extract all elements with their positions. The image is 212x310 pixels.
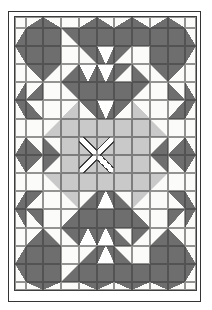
- quilt-cell: [79, 64, 97, 82]
- quilt-cell: [61, 264, 79, 282]
- quilt-cell: [79, 46, 97, 64]
- quilt-cell: [114, 191, 132, 209]
- quilt-cell: [97, 246, 115, 264]
- quilt-cell: [43, 46, 61, 64]
- quilt-cell: [185, 282, 196, 290]
- quilt-cell: [61, 82, 79, 100]
- quilt-cell: [26, 155, 44, 173]
- quilt-cell: [79, 228, 97, 246]
- quilt-cell: [61, 191, 79, 209]
- quilt-cell: [43, 17, 61, 28]
- quilt-cell: [97, 282, 115, 290]
- quilt-cell: [43, 28, 61, 46]
- quilt-cell: [26, 46, 44, 64]
- quilt-cell: [132, 119, 150, 137]
- quilt-cell: [185, 17, 196, 28]
- quilt-cell: [61, 28, 79, 46]
- quilt-cell: [15, 228, 26, 246]
- quilt-cell: [168, 191, 186, 209]
- quilt-cell: [114, 82, 132, 100]
- quilt-cell: [168, 209, 186, 227]
- quilt-cell: [43, 173, 61, 191]
- quilt-cell: [185, 173, 196, 191]
- quilt-cell: [97, 46, 115, 64]
- quilt-cell: [97, 228, 115, 246]
- quilt-cell: [26, 246, 44, 264]
- quilt-cell: [26, 28, 44, 46]
- quilt-cell: [185, 119, 196, 137]
- quilt-cell: [132, 228, 150, 246]
- quilt-cell: [97, 173, 115, 191]
- quilt-cell: [26, 173, 44, 191]
- quilt-cell: [79, 246, 97, 264]
- quilt-cell: [114, 119, 132, 137]
- quilt-cell: [61, 282, 79, 290]
- quilt-cell: [61, 100, 79, 118]
- quilt-cell: [43, 209, 61, 227]
- quilt-cell: [114, 282, 132, 290]
- quilt-cell: [26, 119, 44, 137]
- quilt-cell: [132, 17, 150, 28]
- quilt-cell: [132, 191, 150, 209]
- quilt-cell: [132, 246, 150, 264]
- quilt-cell: [61, 228, 79, 246]
- quilt-cell: [150, 209, 168, 227]
- quilt-cell: [79, 17, 97, 28]
- quilt-cell: [150, 82, 168, 100]
- quilt-cell: [185, 209, 196, 227]
- quilt-cell: [97, 17, 115, 28]
- quilt-cell: [79, 28, 97, 46]
- quilt-cell: [15, 282, 26, 290]
- quilt-cell: [43, 282, 61, 290]
- quilt-cell: [150, 228, 168, 246]
- quilt-cell: [43, 100, 61, 118]
- quilt-cell: [26, 264, 44, 282]
- quilt-cell: [185, 246, 196, 264]
- quilt-cell: [150, 100, 168, 118]
- quilt-pattern-page: { "diagram": { "title": "Quilt pattern d…: [0, 0, 212, 310]
- quilt-cell: [114, 46, 132, 64]
- quilt-cell: [132, 209, 150, 227]
- quilt-cell: [79, 173, 97, 191]
- quilt-cell: [43, 191, 61, 209]
- quilt-cell: [114, 246, 132, 264]
- quilt-cell: [168, 228, 186, 246]
- quilt-diagram: [14, 16, 197, 291]
- quilt-cell: [185, 264, 196, 282]
- quilt-cell: [26, 17, 44, 28]
- quilt-cell: [97, 100, 115, 118]
- quilt-cell: [15, 17, 26, 28]
- quilt-cell: [79, 264, 97, 282]
- quilt-cell: [150, 137, 168, 155]
- quilt-cell: [26, 282, 44, 290]
- quilt-cell: [97, 264, 115, 282]
- quilt-cell: [79, 100, 97, 118]
- quilt-cell: [114, 100, 132, 118]
- quilt-cell: [168, 282, 186, 290]
- quilt-cell: [61, 209, 79, 227]
- quilt-cell: [61, 173, 79, 191]
- quilt-cell: [26, 191, 44, 209]
- quilt-cell: [114, 209, 132, 227]
- quilt-cell: [61, 119, 79, 137]
- quilt-cell: [61, 137, 79, 155]
- quilt-cell: [132, 137, 150, 155]
- quilt-cell: [79, 82, 97, 100]
- quilt-cell: [15, 46, 26, 64]
- quilt-cell: [15, 209, 26, 227]
- quilt-cell: [15, 137, 26, 155]
- quilt-cell: [150, 191, 168, 209]
- quilt-cell: [97, 64, 115, 82]
- quilt-cell: [43, 155, 61, 173]
- quilt-cell: [150, 46, 168, 64]
- quilt-cell: [168, 119, 186, 137]
- quilt-cell: [15, 264, 26, 282]
- quilt-cell: [132, 28, 150, 46]
- quilt-cell: [97, 155, 115, 173]
- quilt-cell: [114, 17, 132, 28]
- quilt-cell: [79, 209, 97, 227]
- quilt-cell: [15, 173, 26, 191]
- quilt-cell: [150, 28, 168, 46]
- quilt-cell: [168, 173, 186, 191]
- quilt-cell: [61, 64, 79, 82]
